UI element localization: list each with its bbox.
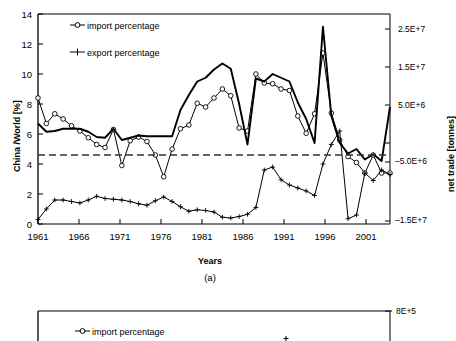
panel-b-export-marker	[284, 336, 289, 341]
x-tick-1981: 1981	[182, 231, 222, 242]
legend-label-export: export percentage	[87, 48, 160, 58]
y-tick-right-5e6: 5.0E+6	[398, 100, 425, 110]
y-tick-left-8: 8	[6, 99, 32, 110]
x-tick-1961: 1961	[18, 231, 58, 242]
y-tick-left-2: 2	[6, 189, 32, 200]
y-tick-right-25e6: 2.5E+7	[398, 24, 425, 34]
axes-frame	[38, 14, 390, 224]
x-tick-2001: 2001	[346, 231, 386, 242]
y-tick-left-14: 14	[6, 9, 32, 20]
x-axis-title: Years	[170, 256, 250, 266]
x-tick-1996: 1996	[305, 231, 345, 242]
panel-b-legend-label-import: import percentage	[92, 327, 165, 337]
x-axis-ticks	[38, 219, 366, 224]
series-import-percentage	[36, 51, 393, 179]
x-tick-1966: 1966	[59, 231, 99, 242]
legend-marker-import	[70, 23, 85, 28]
y-tick-left-10: 10	[6, 69, 32, 80]
y-tick-left-4: 4	[6, 159, 32, 170]
y-axis-right-title: net trade [tonnes]	[446, 116, 456, 192]
panel-b-y-tick-8e5: 8E+5	[396, 306, 416, 316]
x-tick-1971: 1971	[100, 231, 140, 242]
x-tick-1991: 1991	[264, 231, 304, 242]
y-tick-left-0: 0	[6, 219, 32, 230]
y-tick-left-12: 12	[6, 39, 32, 50]
y-axis-left-ticks	[38, 14, 43, 224]
panel-b-legend-marker-import	[75, 329, 90, 334]
series-export-percentage	[36, 129, 393, 222]
legend-marker-export	[70, 49, 85, 56]
y-axis-right-ticks	[385, 29, 390, 221]
y-tick-left-6: 6	[6, 129, 32, 140]
y-tick-right-neg15e7: –1.5E+7	[395, 215, 427, 225]
x-tick-1976: 1976	[141, 231, 181, 242]
series-net-trade	[38, 27, 390, 161]
x-tick-1986: 1986	[223, 231, 263, 242]
panel-a-caption: (a)	[185, 272, 235, 283]
legend-label-import: import percentage	[87, 21, 160, 31]
y-tick-right-neg5e6: –5.0E+6	[395, 156, 427, 166]
y-tick-right-15e6: 1.5E+7	[398, 62, 425, 72]
